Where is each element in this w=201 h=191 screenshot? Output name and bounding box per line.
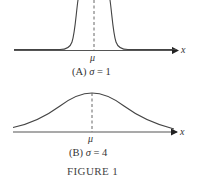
panel-b-caption-value: = 4 (93, 147, 107, 158)
panel-a-caption-prefix: (A) (72, 66, 87, 77)
figure-title: FIGURE 1 (67, 165, 118, 177)
panel-b-density-curve (13, 93, 174, 129)
panel-a-plot (14, 0, 178, 51)
panel-b-mu-label: μ (88, 133, 93, 144)
panel-a-density-curve (14, 0, 176, 50)
panel-b-x-label: x (180, 126, 184, 137)
figure-canvas (0, 0, 201, 191)
panel-a-caption-sigma: σ (89, 66, 94, 77)
panel-b-caption: (B) σ = 4 (69, 147, 107, 158)
panel-b-caption-sigma: σ (86, 147, 91, 158)
panel-a-caption-value: = 1 (97, 66, 111, 77)
panel-a-caption: (A) σ = 1 (72, 66, 111, 77)
panel-b-plot (13, 93, 177, 132)
panel-a-mu-label: μ (90, 52, 95, 63)
panel-b-caption-prefix: (B) (69, 147, 83, 158)
panel-a-x-label: x (181, 44, 185, 55)
